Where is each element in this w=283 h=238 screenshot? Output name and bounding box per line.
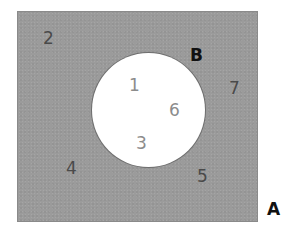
element-1: 1 <box>129 77 140 94</box>
set-a-label: A <box>267 201 280 218</box>
set-b-circle <box>92 53 205 167</box>
set-b-label: B <box>190 47 203 64</box>
venn-diagram: 2 7 4 5 1 6 3 B A <box>0 0 283 238</box>
element-6: 6 <box>169 102 180 119</box>
element-3: 3 <box>136 135 147 152</box>
element-4: 4 <box>66 160 77 177</box>
element-7: 7 <box>229 80 240 97</box>
element-2: 2 <box>43 30 54 47</box>
element-5: 5 <box>197 168 208 185</box>
